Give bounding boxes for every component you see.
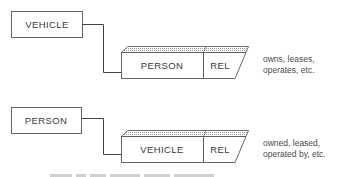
record-key-label: VEHICLE xyxy=(140,144,183,155)
record-rel-label: REL xyxy=(210,144,230,155)
connector-line xyxy=(83,25,122,73)
relationship-group-1: VEHICLE PERSON REL owns, leases, operate… xyxy=(12,12,315,79)
record-block: PERSON REL xyxy=(122,47,249,79)
record-top-face xyxy=(122,47,249,53)
relationship-note-line-1: owns, leases, xyxy=(263,54,315,64)
record-top-face xyxy=(122,131,249,137)
relationship-diagram: VEHICLE PERSON REL owns, leases, operate… xyxy=(0,0,342,177)
entity-label: VEHICLE xyxy=(25,19,68,30)
relationship-note-line-2: operates, etc. xyxy=(263,65,315,75)
relationship-group-2: PERSON VEHICLE REL owned, leased, operat… xyxy=(12,108,326,163)
clipped-caption xyxy=(50,174,214,177)
relationship-note-line-2: operated by, etc. xyxy=(263,149,326,159)
record-block: VEHICLE REL xyxy=(122,131,249,163)
record-key-label: PERSON xyxy=(141,60,184,71)
connector-line xyxy=(82,119,122,155)
entity-label: PERSON xyxy=(25,115,68,126)
relationship-note-line-1: owned, leased, xyxy=(263,138,320,148)
record-rel-label: REL xyxy=(210,60,230,71)
